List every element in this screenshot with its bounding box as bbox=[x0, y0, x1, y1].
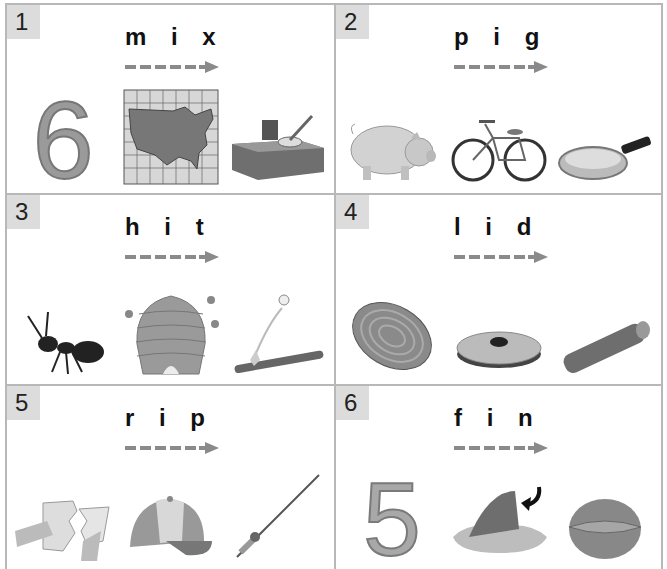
dashed-arrow-icon bbox=[125, 251, 219, 263]
svg-text:6: 6 bbox=[32, 90, 93, 185]
item-number-badge: 4 bbox=[336, 195, 369, 229]
item-word: m i x bbox=[125, 23, 225, 51]
pig-picture bbox=[342, 89, 442, 185]
item-number-badge: 2 bbox=[336, 5, 369, 39]
worksheet-grid: 1 m i x 6 2 p i g bbox=[5, 3, 663, 569]
cap-picture bbox=[121, 465, 221, 561]
lid-picture bbox=[449, 280, 549, 376]
fin-picture bbox=[449, 465, 549, 561]
item-word: f i n bbox=[454, 404, 542, 432]
item-number-badge: 3 bbox=[7, 195, 40, 229]
nut-picture bbox=[555, 465, 655, 561]
mixing-bowl-picture bbox=[228, 89, 328, 185]
ant-picture bbox=[13, 280, 113, 376]
map-picture bbox=[121, 89, 221, 185]
item-word: h i t bbox=[125, 213, 213, 241]
item-5: 5 r i p bbox=[7, 384, 334, 569]
ripping-paper-picture bbox=[13, 465, 113, 561]
item-word: r i p bbox=[125, 404, 214, 432]
svg-text:5: 5 bbox=[363, 471, 421, 561]
bicycle-picture bbox=[449, 89, 549, 185]
item-2: 2 p i g bbox=[334, 5, 661, 193]
frying-pan-picture bbox=[555, 89, 655, 185]
item-4: 4 l i d bbox=[334, 193, 661, 384]
dashed-arrow-icon bbox=[454, 251, 548, 263]
beehive-picture bbox=[121, 280, 221, 376]
item-word: l i d bbox=[454, 213, 540, 241]
dashed-arrow-icon bbox=[125, 61, 219, 73]
number-six-picture: 6 bbox=[13, 89, 113, 185]
item-1: 1 m i x 6 bbox=[7, 5, 334, 193]
dashed-arrow-icon bbox=[454, 442, 548, 454]
item-number-badge: 6 bbox=[336, 386, 369, 420]
tree-ring-picture bbox=[342, 280, 442, 376]
item-number-badge: 1 bbox=[7, 5, 40, 39]
number-five-picture: 5 bbox=[342, 465, 442, 561]
bat-hitting-ball-picture bbox=[228, 280, 328, 376]
item-6: 6 f i n 5 bbox=[334, 384, 661, 569]
dashed-arrow-icon bbox=[125, 442, 219, 454]
dashed-arrow-icon bbox=[454, 61, 548, 73]
item-word: p i g bbox=[454, 23, 548, 51]
item-number-badge: 5 bbox=[7, 386, 40, 420]
log-picture bbox=[555, 280, 655, 376]
fishing-rod-picture bbox=[228, 465, 328, 561]
item-3: 3 h i t bbox=[7, 193, 334, 384]
